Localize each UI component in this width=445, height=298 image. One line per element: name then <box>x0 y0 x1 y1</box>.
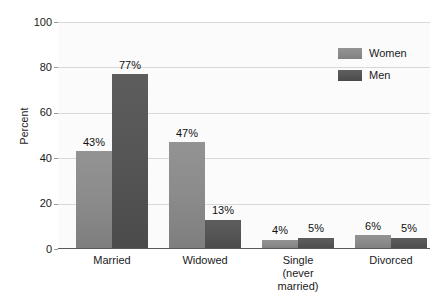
bar-chart: Percent 100 80 60 40 20 0 43% 77% <box>0 0 445 298</box>
value-label-single-women: 4% <box>262 225 298 236</box>
x-label-divorced-line-1: Divorced <box>355 254 427 267</box>
x-label-single-line-3: married) <box>262 280 334 293</box>
bar-married-men[interactable] <box>112 74 148 249</box>
bar-divorced-women[interactable] <box>355 235 391 249</box>
value-label-single-men: 5% <box>298 223 334 234</box>
legend-item-women[interactable]: Women <box>338 42 434 64</box>
y-tick-label-40: 40 <box>26 153 52 164</box>
value-label-divorced-women: 6% <box>355 221 391 232</box>
legend-label-men: Men <box>369 69 390 81</box>
y-tick-label-0: 0 <box>26 244 52 255</box>
value-label-married-women: 43% <box>76 137 112 148</box>
y-tick-label-100: 100 <box>26 17 52 28</box>
x-label-single-line-2: (never <box>262 267 334 280</box>
x-label-widowed: Widowed <box>169 254 241 267</box>
y-tick-label-60: 60 <box>26 107 52 118</box>
legend-item-men[interactable]: Men <box>338 64 434 86</box>
x-label-widowed-line-1: Widowed <box>169 254 241 267</box>
y-tick-dash-0 <box>54 249 58 250</box>
y-axis-ticks: 100 80 60 40 20 0 <box>22 0 52 298</box>
x-label-single-line-1: Single <box>262 254 334 267</box>
legend: Women Men <box>338 42 434 86</box>
legend-label-women: Women <box>369 47 407 59</box>
x-axis-line <box>58 248 430 249</box>
bar-widowed-women[interactable] <box>169 142 205 249</box>
bar-married-women[interactable] <box>76 151 112 249</box>
bar-widowed-men[interactable] <box>205 220 241 250</box>
legend-swatch-men-icon <box>338 70 362 81</box>
value-label-divorced-men: 5% <box>391 223 427 234</box>
value-label-widowed-men: 13% <box>205 205 241 216</box>
x-label-married: Married <box>76 254 148 267</box>
x-label-divorced: Divorced <box>355 254 427 267</box>
x-label-single: Single (never married) <box>262 254 334 293</box>
legend-swatch-women-icon <box>338 48 362 59</box>
y-tick-label-20: 20 <box>26 198 52 209</box>
value-label-widowed-women: 47% <box>169 128 205 139</box>
value-label-married-men: 77% <box>112 60 148 71</box>
gridline-100 <box>58 22 430 23</box>
x-label-married-line-1: Married <box>76 254 148 267</box>
y-tick-label-80: 80 <box>26 62 52 73</box>
